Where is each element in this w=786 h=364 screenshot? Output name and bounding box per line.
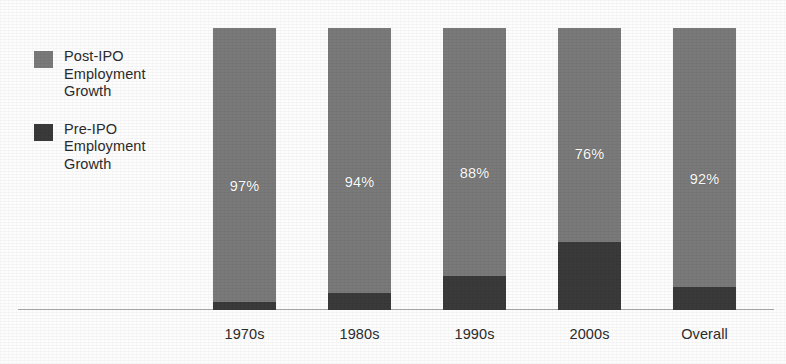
bar-group-1970s: 97% bbox=[213, 28, 276, 310]
stacked-bar[interactable]: 88% bbox=[443, 28, 506, 310]
axis-tick-label-2000s: 2000s bbox=[536, 326, 643, 342]
bar-value-label: 92% bbox=[673, 171, 736, 187]
stacked-bar[interactable]: 76% bbox=[558, 28, 621, 310]
bar-value-label: 97% bbox=[213, 178, 276, 194]
axis-tick-label-1970s: 1970s bbox=[191, 326, 298, 342]
bar-segment-post-ipo[interactable]: 76% bbox=[558, 28, 621, 242]
bar-value-label: 88% bbox=[443, 165, 506, 181]
bar-value-label: 94% bbox=[328, 174, 391, 190]
bar-segment-post-ipo[interactable]: 97% bbox=[213, 28, 276, 302]
bar-segment-post-ipo[interactable]: 88% bbox=[443, 28, 506, 276]
bar-segment-pre-ipo[interactable] bbox=[213, 302, 276, 310]
stacked-bar[interactable]: 92% bbox=[673, 28, 736, 310]
bar-segment-pre-ipo[interactable] bbox=[443, 276, 506, 310]
axis-tick-label-overall: Overall bbox=[651, 326, 758, 342]
bar-value-label: 76% bbox=[558, 146, 621, 162]
axis-tick-label-1990s: 1990s bbox=[421, 326, 528, 342]
bar-segment-post-ipo[interactable]: 92% bbox=[673, 28, 736, 287]
category-axis-line bbox=[18, 309, 774, 310]
bar-group-1980s: 94% bbox=[328, 28, 391, 310]
bar-segment-pre-ipo[interactable] bbox=[558, 242, 621, 310]
bar-segment-pre-ipo[interactable] bbox=[673, 287, 736, 310]
bar-group-2000s: 76% bbox=[558, 28, 621, 310]
bar-group-overall: 92% bbox=[673, 28, 736, 310]
bar-group-1990s: 88% bbox=[443, 28, 506, 310]
stacked-bar-chart: Post-IPO Employment Growth Pre-IPO Emplo… bbox=[0, 0, 786, 364]
plot-area: 97%1970s94%1980s88%1990s76%2000s92%Overa… bbox=[0, 0, 786, 364]
bar-segment-pre-ipo[interactable] bbox=[328, 293, 391, 310]
axis-tick-label-1980s: 1980s bbox=[306, 326, 413, 342]
stacked-bar[interactable]: 97% bbox=[213, 28, 276, 310]
bar-segment-post-ipo[interactable]: 94% bbox=[328, 28, 391, 293]
stacked-bar[interactable]: 94% bbox=[328, 28, 391, 310]
